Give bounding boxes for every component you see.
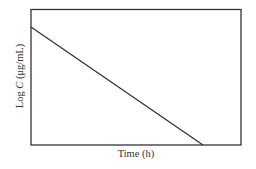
- plot-area: [0, 0, 256, 169]
- y-axis-label: Log C (μg/mL): [14, 44, 25, 109]
- data-line: [31, 27, 203, 145]
- plot-frame: [31, 10, 241, 146]
- x-axis-label: Time (h): [0, 148, 256, 159]
